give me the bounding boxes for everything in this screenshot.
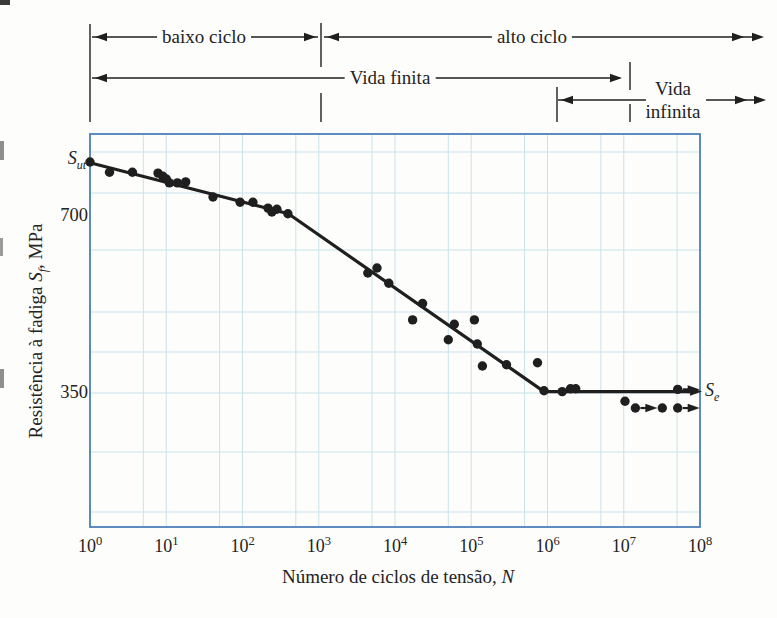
arrowhead-icon (327, 33, 339, 41)
scan-edge-marks (0, 0, 10, 388)
x-axis-tick-label: 104 (383, 536, 407, 557)
x-axis-tick-label: 103 (307, 536, 331, 557)
sn-curve-line (90, 163, 544, 392)
se-label: Se (705, 380, 719, 401)
y-axis-title: Resistência à fadiga Sf, MPa (25, 224, 47, 439)
y-axis-tick-label: 700 (40, 205, 88, 226)
x-axis-tick-label: 107 (612, 536, 636, 557)
infinite-life-region-label-line1: Vida (655, 78, 691, 100)
arrowhead-icon (304, 33, 316, 41)
arrowhead-icon (95, 74, 107, 82)
arrowhead-icon (735, 96, 747, 104)
finite-life-region-label: Vida finita (345, 67, 436, 89)
x-axis-tick-label: 105 (459, 536, 483, 557)
arrowhead-icon (752, 33, 764, 41)
data-points (85, 157, 667, 412)
sut-label: Sut (38, 148, 86, 169)
arrowhead-icon (561, 96, 573, 104)
arrowhead-icon (95, 33, 107, 41)
x-axis-tick-label: 102 (230, 536, 254, 557)
x-axis-tick-label: 100 (78, 536, 102, 557)
x-axis-tick-label: 101 (154, 536, 178, 557)
arrowhead-icon (754, 96, 766, 104)
low-cycle-region-label: baixo ciclo (157, 26, 251, 48)
x-axis-tick-label: 106 (535, 536, 559, 557)
high-cycle-region-label: alto ciclo (492, 26, 572, 48)
x-axis-title: Número de ciclos de tensão, N (282, 566, 514, 588)
arrowhead-icon (732, 33, 744, 41)
arrowhead-icon (610, 74, 622, 82)
arrowhead-icon (688, 404, 700, 412)
sn-fatigue-diagram: baixo ciclo alto ciclo Vida finita Vida … (0, 0, 777, 618)
infinite-life-region-label-line2: infinita (646, 101, 701, 123)
grid-lines (90, 134, 700, 527)
x-axis-tick-label: 108 (688, 536, 712, 557)
y-axis-tick-label: 350 (40, 382, 88, 403)
arrowhead-icon (645, 404, 657, 412)
